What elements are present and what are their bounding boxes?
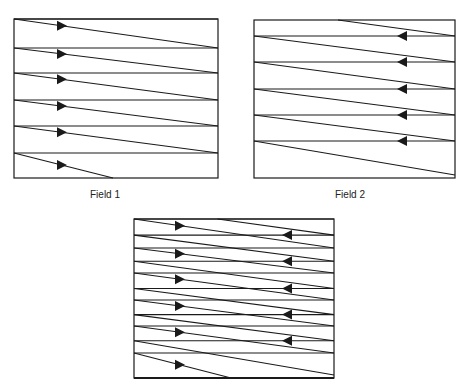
field-border [254,20,455,178]
arrow-right-icon [57,21,67,31]
scan-line [134,219,334,248]
arrow-right-icon [57,160,67,170]
scan-line [134,261,334,288]
field-border [14,19,218,178]
scan-line [134,315,334,341]
field-border [134,219,334,378]
scan-line [254,115,455,141]
arrow-right-icon [57,74,67,84]
arrow-right-icon [175,360,185,370]
arrow-left-icon [282,310,292,320]
field-1-diagram [14,19,218,178]
scan-line [254,62,455,89]
scan-line [14,19,218,48]
arrow-left-icon [282,256,292,266]
scan-line [134,288,334,314]
scan-line [134,341,334,375]
field-1-label: Field 1 [90,189,120,200]
field-2-diagram [254,20,455,178]
scan-line [134,326,334,353]
arrow-left-icon [397,57,407,67]
arrow-left-icon [397,110,407,120]
scan-line [254,36,455,62]
scan-line [254,89,455,115]
arrow-right-icon [175,301,185,311]
arrow-left-icon [282,230,292,240]
scan-line [14,126,218,153]
scan-line [218,219,334,235]
arrow-left-icon [397,84,407,94]
scan-line [134,300,334,326]
arrow-right-icon [175,327,185,337]
scan-line [14,48,218,73]
arrow-left-icon [397,136,407,146]
arrow-right-icon [57,127,67,137]
scan-line [134,273,334,300]
arrow-left-icon [397,31,407,41]
arrow-left-icon [282,336,292,346]
scan-line [338,20,455,36]
scan-line [254,141,455,175]
interlace-diagram [0,0,464,388]
combined-frame-diagram [134,219,334,378]
arrow-right-icon [57,101,67,111]
arrow-right-icon [175,221,185,231]
scan-line [134,248,334,273]
scan-line [14,100,218,126]
field-2-label: Field 2 [335,189,365,200]
scan-line [14,73,218,100]
arrow-right-icon [175,274,185,284]
arrow-right-icon [175,249,185,259]
arrow-left-icon [282,283,292,293]
arrow-right-icon [57,49,67,59]
